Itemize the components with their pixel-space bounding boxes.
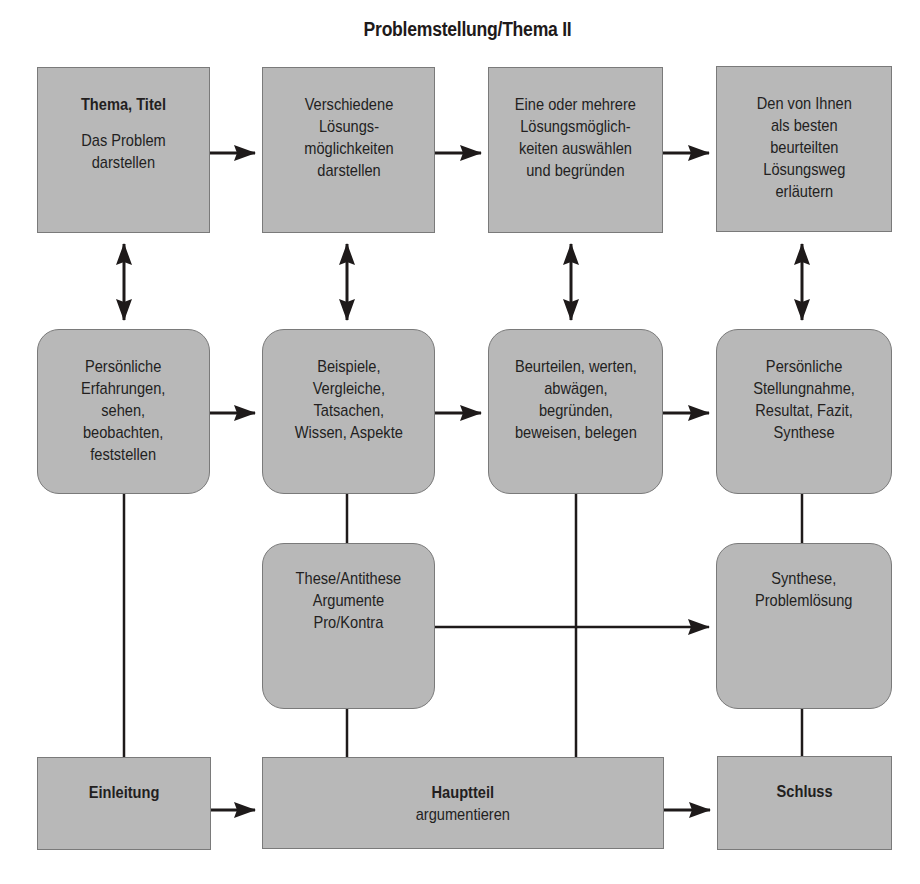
box-einleitung: Einleitung <box>37 757 211 850</box>
box-these-antithese: These/Antithese Argumente Pro/Kontra <box>262 543 435 709</box>
box-auswaehlen-begruenden: Eine oder mehrere Lösungsmöglich- keiten… <box>488 67 663 233</box>
box-thema-titel: Thema, Titel Das Problem darstellen <box>37 67 210 233</box>
box-heading: Thema, Titel <box>81 94 166 116</box>
box-stellungnahme: Persönliche Stellungnahme, Resultat, Faz… <box>716 329 892 494</box>
box-loesungsmoeglichkeiten: Verschiedene Lösungs- möglichkeiten dars… <box>262 67 435 233</box>
box-schluss: Schluss <box>717 756 892 850</box>
box-beurteilen: Beurteilen, werten, abwägen, begründen, … <box>488 329 663 494</box>
box-persoenliche-erfahrungen: Persönliche Erfahrungen, sehen, beobacht… <box>37 329 210 494</box>
box-hauptteil: Hauptteil argumentieren <box>262 757 664 849</box>
box-synthese-problemloesung: Synthese, Problemlösung <box>716 543 892 709</box>
box-loesungsweg-erlaeutern: Den von Ihnen als besten beurteilten Lös… <box>716 66 892 232</box>
box-beispiele: Beispiele, Vergleiche, Tatsachen, Wissen… <box>262 329 435 494</box>
